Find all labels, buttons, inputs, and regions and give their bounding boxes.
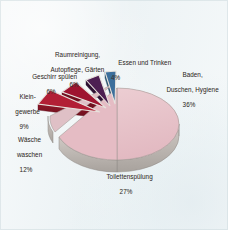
- slice-label-toilette: Toilettenspülung 27%: [88, 166, 164, 210]
- slice-label-baden-percent: 36%: [152, 101, 226, 108]
- slice-label-raumreinigung-line1: Raumreinigung,: [55, 51, 100, 58]
- slice-label-waesche-line1: Wäsche: [18, 136, 41, 143]
- slice-label-waesche-line2: waschen: [17, 151, 42, 158]
- slice-label-baden-line2: Duschen, Hygiene: [166, 86, 218, 93]
- slice-label-geschirr-line1: Geschirr spülen: [32, 73, 77, 80]
- pie-chart-figure: Essen und Trinken 4% Baden, Duschen, Hyg…: [0, 0, 228, 230]
- slice-label-kleingewerbe-line1: Klein-: [19, 93, 35, 100]
- slice-label-baden: Baden, Duschen, Hygiene 36%: [152, 64, 226, 123]
- slice-label-waesche-percent: 12%: [2, 166, 50, 173]
- slice-label-toilette-percent: 27%: [88, 188, 164, 195]
- slice-label-toilette-line1: Toilettenspülung: [106, 173, 152, 180]
- slice-label-waesche: Wäsche waschen 12%: [2, 129, 50, 188]
- slice-label-kleingewerbe-line2: gewerbe: [15, 108, 40, 115]
- slice-label-baden-line1: Baden,: [182, 71, 202, 78]
